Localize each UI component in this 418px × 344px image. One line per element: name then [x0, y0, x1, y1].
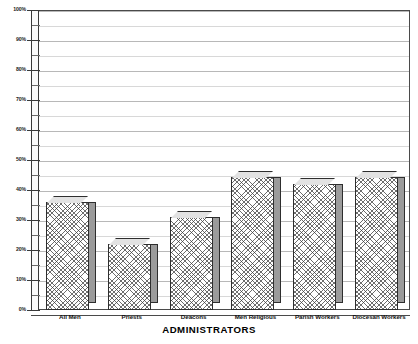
y-axis-tick: [27, 280, 40, 281]
bar[interactable]: [46, 202, 96, 310]
bar-side-face: [89, 202, 96, 303]
y-axis-tick: [27, 70, 40, 71]
bar-front-face: [231, 177, 274, 311]
bar-top-face: [294, 178, 335, 185]
y-axis-tick: [27, 100, 40, 101]
y-axis-tick: [27, 310, 40, 311]
bar-side-face: [213, 217, 220, 303]
y-axis-tick: [32, 205, 40, 206]
y-axis-tick: [32, 55, 40, 56]
bar-top-face: [47, 196, 88, 203]
bar-slot: [355, 10, 405, 310]
y-axis-tick: [27, 190, 40, 191]
bar-front-face: [293, 184, 336, 310]
bar-top-face: [356, 171, 397, 178]
bar-top-face: [109, 238, 150, 245]
y-axis-tick-label: 90%: [0, 37, 26, 42]
y-axis-tick-label: 50%: [0, 157, 26, 162]
bar[interactable]: [108, 244, 158, 310]
y-axis-tick: [27, 160, 40, 161]
bar-front-face: [170, 217, 213, 310]
y-axis-tick-label: 70%: [0, 97, 26, 102]
y-axis-tick: [27, 220, 40, 221]
y-axis-tick: [32, 235, 40, 236]
x-axis-category-label: Men Religious: [225, 314, 287, 320]
bar-slot: [108, 10, 158, 310]
x-axis-labels: All MenPriestsDeaconsMen ReligiousParish…: [39, 314, 410, 326]
y-axis-tick: [27, 250, 40, 251]
y-axis-tick: [27, 130, 40, 131]
y-axis-tick: [32, 25, 40, 26]
x-axis-category-label: Diocesan Workers: [348, 314, 410, 320]
bar-front-face: [46, 202, 89, 310]
bar-side-face: [336, 184, 343, 303]
y-axis-tick: [32, 115, 40, 116]
bar-side-face: [151, 244, 158, 303]
y-axis-tick-label: 40%: [0, 187, 26, 192]
y-axis-tick: [32, 295, 40, 296]
bar-slot: [231, 10, 281, 310]
bar-slot: [293, 10, 343, 310]
bar[interactable]: [293, 184, 343, 310]
bar-side-face: [398, 177, 405, 304]
bar[interactable]: [231, 177, 281, 311]
x-axis-category-label: All Men: [39, 314, 101, 320]
y-axis-tick: [27, 40, 40, 41]
bar-top-face: [232, 171, 273, 178]
y-axis-tick-label: 100%: [0, 7, 26, 12]
bar[interactable]: [170, 217, 220, 310]
bar-front-face: [355, 177, 398, 311]
y-axis-tick-label: 60%: [0, 127, 26, 132]
y-axis-tick-label: 80%: [0, 67, 26, 72]
x-axis-title: ADMINISTRATORS: [0, 325, 418, 335]
bar-top-face: [171, 211, 212, 218]
y-axis-tick-label: 10%: [0, 277, 26, 282]
bar-slot: [46, 10, 96, 310]
bar[interactable]: [355, 177, 405, 311]
y-axis-tick-label: 0%: [0, 307, 26, 312]
y-axis-tick-label: 30%: [0, 217, 26, 222]
bar-chart: 0%10%20%30%40%50%60%70%80%90%100% All Me…: [0, 0, 418, 344]
y-axis-tick-label: 20%: [0, 247, 26, 252]
x-axis-category-label: Deacons: [163, 314, 225, 320]
bar-side-face: [274, 177, 281, 304]
y-axis: [31, 10, 39, 310]
y-axis-tick: [32, 145, 40, 146]
y-axis-tick: [32, 85, 40, 86]
y-axis-tick: [27, 10, 40, 11]
x-axis-category-label: Priests: [101, 314, 163, 320]
y-axis-tick: [32, 175, 40, 176]
bars-group: [39, 10, 410, 310]
y-axis-tick: [32, 265, 40, 266]
bar-front-face: [108, 244, 151, 310]
bar-slot: [170, 10, 220, 310]
x-axis-category-label: Parish Workers: [286, 314, 348, 320]
